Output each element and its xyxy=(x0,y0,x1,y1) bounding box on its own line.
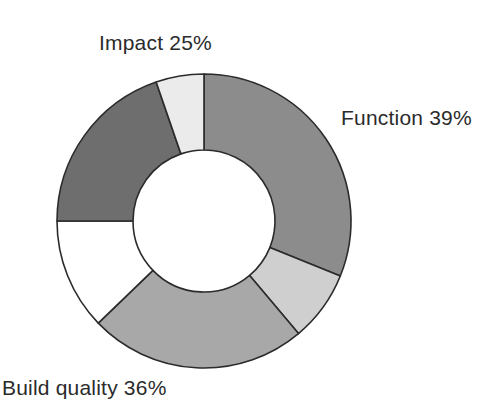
slice-label-function: Function 39% xyxy=(341,106,472,130)
donut-slice-function-main xyxy=(204,74,351,276)
slice-label-build-quality: Build quality 36% xyxy=(2,376,167,400)
donut-chart xyxy=(0,0,481,419)
donut-segment-group xyxy=(57,74,351,368)
chart-page: Impact 25% Function 39% Build quality 36… xyxy=(0,0,481,419)
donut-slice-impact-main xyxy=(57,82,181,221)
slice-label-impact: Impact 25% xyxy=(99,31,212,55)
